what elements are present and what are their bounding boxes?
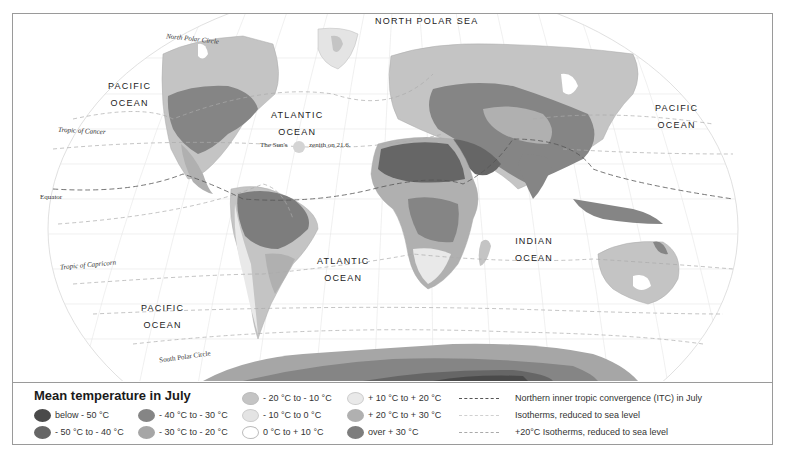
sun-zenith-marker xyxy=(293,141,305,153)
legend-item-minus-40-to-minus-30: - 40 °C to - 30 °C xyxy=(138,408,228,422)
map-frame: NORTH POLAR SEA PACIFICOCEAN ATLANTICOCE… xyxy=(12,13,773,445)
swatch-icon xyxy=(347,409,364,422)
swatch-icon xyxy=(34,426,51,439)
label-pacific-nw: PACIFICOCEAN xyxy=(108,78,151,112)
legend-title: Mean temperature in July xyxy=(34,388,191,403)
legend-line-itc: Northern inner tropic convergence (ITC) … xyxy=(459,391,702,405)
legend-line-20c-isotherms: +20°C Isotherms, reduced to sea level xyxy=(459,425,668,439)
legend: Mean temperature in July below - 50 °C -… xyxy=(13,382,772,445)
label-atlantic-n: ATLANTICOCEAN xyxy=(271,107,323,141)
label-pacific-s: PACIFICOCEAN xyxy=(141,300,184,334)
legend-item-0-to-plus-10: 0 °C to + 10 °C xyxy=(242,425,323,439)
dashed-line-icon xyxy=(459,415,499,416)
dashed-line-icon xyxy=(459,432,499,433)
legend-line-isotherms: Isotherms, reduced to sea level xyxy=(459,408,640,422)
swatch-icon xyxy=(242,409,259,422)
label-north-polar-sea: NORTH POLAR SEA xyxy=(375,13,478,30)
label-pacific-ne: PACIFICOCEAN xyxy=(655,100,698,134)
legend-item-below-minus-50: below - 50 °C xyxy=(34,408,109,422)
legend-item-plus-10-to-plus-20: + 10 °C to + 20 °C xyxy=(347,391,441,405)
label-atlantic-s: ATLANTICOCEAN xyxy=(317,253,369,287)
legend-item-minus-20-to-minus-10: - 20 °C to - 10 °C xyxy=(242,391,332,405)
label-indian: INDIANOCEAN xyxy=(515,233,553,267)
legend-item-plus-20-to-plus-30: + 20 °C to + 30 °C xyxy=(347,408,441,422)
label-equator: Equator xyxy=(40,193,62,201)
legend-item-minus-30-to-minus-20: - 30 °C to - 20 °C xyxy=(138,425,228,439)
swatch-icon xyxy=(242,426,259,439)
world-map xyxy=(13,14,772,381)
label-sun-zenith-a: The Sun's xyxy=(260,141,288,149)
legend-item-minus-50-to-minus-40: - 50 °C to - 40 °C xyxy=(34,425,124,439)
legend-item-minus-10-to-0: - 10 °C to 0 °C xyxy=(242,408,321,422)
legend-item-over-plus-30: over + 30 °C xyxy=(347,425,418,439)
swatch-icon xyxy=(138,409,155,422)
swatch-icon xyxy=(242,392,259,405)
dashed-line-icon xyxy=(459,398,499,399)
swatch-icon xyxy=(347,392,364,405)
label-sun-zenith-b: zenith on 21.6. xyxy=(309,141,351,149)
swatch-icon xyxy=(34,409,51,422)
swatch-icon xyxy=(347,426,364,439)
swatch-icon xyxy=(138,426,155,439)
